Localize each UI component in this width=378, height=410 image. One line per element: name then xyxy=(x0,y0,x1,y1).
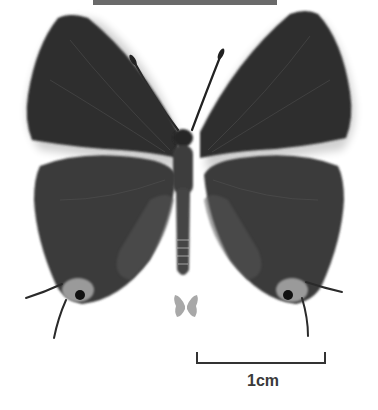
scale-bar xyxy=(196,352,328,372)
scale-bar-label: 1cm xyxy=(218,372,308,390)
butterfly-specimen xyxy=(0,0,378,410)
butterfly-icon xyxy=(172,292,200,320)
body xyxy=(173,129,193,275)
scale-bar-line xyxy=(196,352,326,364)
